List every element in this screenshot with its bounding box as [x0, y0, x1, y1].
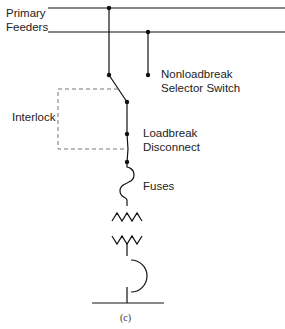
primary-label-1: Primary: [6, 7, 46, 19]
selector-contact-right: [146, 73, 150, 77]
interlock-label: Interlock: [12, 111, 56, 123]
feeder-switching-diagram: Primary Feeders Nonloadbreak Selector Sw…: [0, 0, 285, 329]
figure-caption: (c): [120, 312, 131, 324]
loadbreak-blade: [127, 134, 128, 149]
fuses-label: Fuses: [143, 180, 175, 192]
loadbreak-label-1: Loadbreak: [143, 127, 198, 139]
arc-contact-symbol: [131, 260, 147, 292]
selector-label-1: Nonloadbreak: [161, 68, 233, 80]
selector-label-2: Selector Switch: [161, 82, 240, 94]
fuse-symbol: [120, 162, 134, 206]
loadbreak-label-2: Disconnect: [143, 141, 201, 153]
interlock-box: [58, 89, 127, 149]
transformer-secondary-winding: [112, 236, 142, 244]
transformer-primary-winding: [112, 213, 142, 221]
primary-label-2: Feeders: [6, 21, 48, 33]
